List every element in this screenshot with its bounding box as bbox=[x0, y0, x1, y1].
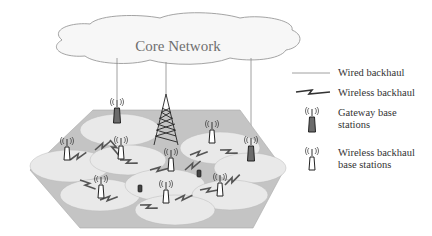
legend-wbs-line2: base stations bbox=[338, 159, 415, 171]
legend-wbs-label: Wireless backhaul base stations bbox=[338, 147, 415, 171]
legend-gateway-line2: stations bbox=[338, 119, 397, 131]
wireless-backhaul-bs-legend-icon bbox=[305, 147, 318, 170]
legend-graphics bbox=[292, 73, 330, 170]
core-network-label: Core Network bbox=[118, 38, 238, 55]
legend-gateway-label: Gateway base stations bbox=[338, 107, 397, 131]
legend-wired-label: Wired backhaul bbox=[338, 67, 404, 79]
gateway-base-station-legend-icon bbox=[305, 107, 318, 132]
wireless-backhaul-legend-icon bbox=[296, 90, 330, 94]
legend-wbs-line1: Wireless backhaul bbox=[338, 147, 415, 159]
legend-wireless-label: Wireless backhaul bbox=[338, 87, 415, 99]
legend-gateway-line1: Gateway base bbox=[338, 107, 397, 119]
